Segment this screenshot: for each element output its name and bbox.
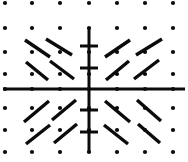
grid-dot xyxy=(171,26,175,30)
grid-dot xyxy=(3,72,7,76)
grid-dot xyxy=(115,128,119,132)
figure-background xyxy=(0,0,188,162)
grid-dot xyxy=(3,128,7,132)
grid-dot xyxy=(30,50,34,54)
grid-dot xyxy=(87,1,91,5)
grid-dot xyxy=(3,26,7,30)
grid-dot xyxy=(30,1,34,5)
grid-dot xyxy=(3,150,7,154)
slope-field-figure xyxy=(0,0,188,162)
grid-dot xyxy=(58,26,62,30)
grid-dot xyxy=(3,1,7,5)
grid-dot xyxy=(143,150,147,154)
grid-dot xyxy=(171,1,175,5)
grid-dot xyxy=(30,106,34,110)
grid-dot xyxy=(171,128,175,132)
grid-dot xyxy=(115,1,119,5)
grid-dot xyxy=(115,26,119,30)
slope-field-canvas xyxy=(0,0,188,162)
grid-dot xyxy=(3,50,7,54)
grid-dot xyxy=(171,106,175,110)
grid-dot xyxy=(171,72,175,76)
grid-dot xyxy=(143,26,147,30)
grid-dot xyxy=(58,128,62,132)
grid-dot xyxy=(3,106,7,110)
grid-dot xyxy=(30,72,34,76)
grid-dot xyxy=(30,26,34,30)
grid-dot xyxy=(115,150,119,154)
grid-dot xyxy=(58,106,62,110)
grid-dot xyxy=(58,50,62,54)
grid-dot xyxy=(58,150,62,154)
grid-dot xyxy=(30,150,34,154)
grid-dot xyxy=(171,150,175,154)
grid-dot xyxy=(171,50,175,54)
grid-dot xyxy=(58,72,62,76)
grid-dot xyxy=(58,1,62,5)
grid-dot xyxy=(30,128,34,132)
grid-dot xyxy=(143,1,147,5)
